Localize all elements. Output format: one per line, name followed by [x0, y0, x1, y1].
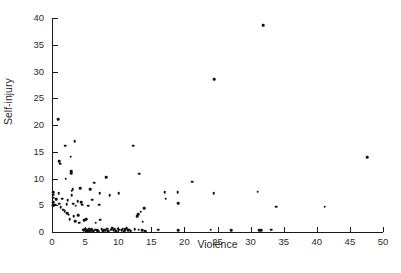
data-point — [97, 230, 100, 233]
data-point — [64, 145, 67, 148]
data-point — [98, 192, 101, 195]
data-point — [260, 229, 263, 232]
data-point — [67, 214, 70, 217]
data-point — [94, 222, 97, 225]
data-point — [57, 118, 60, 121]
data-point — [210, 229, 213, 232]
data-point — [73, 215, 76, 218]
data-point — [85, 218, 88, 221]
data-point — [144, 230, 147, 233]
data-point — [52, 193, 55, 196]
data-point — [133, 228, 136, 231]
data-point — [55, 198, 58, 201]
y-axis-tick — [53, 98, 58, 99]
data-point — [74, 220, 77, 223]
data-point — [132, 145, 135, 148]
y-axis-tick-label: 40 — [33, 13, 44, 23]
data-point — [89, 188, 92, 191]
y-axis-tick-label: 5 — [39, 201, 44, 211]
data-point — [99, 218, 102, 221]
y-axis-tick — [53, 152, 58, 153]
data-point — [71, 188, 74, 191]
data-point — [213, 78, 216, 81]
data-point — [69, 218, 72, 221]
data-point — [71, 194, 74, 197]
data-point — [65, 177, 68, 180]
data-point — [176, 191, 179, 194]
data-point — [270, 229, 273, 232]
data-point — [79, 187, 82, 190]
data-point — [366, 156, 369, 159]
y-axis-tick — [53, 232, 58, 233]
data-point — [105, 176, 108, 179]
y-axis-tick-label: 15 — [33, 147, 44, 157]
data-point — [73, 140, 76, 143]
data-point — [191, 180, 194, 183]
x-axis-tick — [350, 227, 351, 232]
data-point — [93, 181, 96, 184]
data-point — [57, 192, 60, 195]
data-point — [75, 204, 78, 207]
y-axis-tick — [53, 18, 58, 19]
scatter-plot-figure: 05101520253035404550 0510152025303540 Vi… — [0, 0, 401, 273]
x-axis-tick — [218, 227, 219, 232]
data-point — [141, 221, 144, 224]
y-axis-tick — [53, 72, 58, 73]
data-point — [54, 203, 57, 206]
y-axis-tick — [53, 179, 58, 180]
data-point — [81, 203, 84, 206]
y-axis-tick-label: 20 — [33, 120, 44, 130]
data-point — [98, 203, 101, 206]
x-axis-tick — [383, 227, 384, 232]
y-axis-tick — [53, 45, 58, 46]
data-point — [87, 204, 90, 207]
plot-area: 05101520253035404550 0510152025303540 — [52, 18, 383, 232]
data-point — [77, 214, 80, 217]
data-point — [165, 198, 168, 201]
y-axis-tick-label: 30 — [33, 67, 44, 77]
x-axis-tick — [251, 227, 252, 232]
data-point — [69, 155, 72, 158]
data-point — [118, 192, 121, 195]
x-axis-tick — [317, 227, 318, 232]
data-point — [177, 229, 180, 232]
data-point — [91, 199, 94, 202]
y-axis-tick-label: 25 — [33, 94, 44, 104]
data-point — [212, 192, 215, 195]
data-point — [323, 206, 326, 209]
data-point — [78, 222, 81, 225]
x-axis-title: Violence — [52, 238, 383, 250]
data-point — [141, 229, 144, 232]
data-point — [139, 210, 142, 213]
y-axis-tick-label: 35 — [33, 40, 44, 50]
data-point — [137, 229, 140, 232]
y-axis-title: Self-injury — [2, 78, 14, 125]
data-point — [230, 229, 233, 232]
data-point — [65, 203, 68, 206]
data-point — [77, 200, 80, 203]
data-point — [138, 172, 141, 175]
x-axis-tick — [184, 227, 185, 232]
y-axis-tick-label: 10 — [33, 174, 44, 184]
y-axis-tick-label: 0 — [39, 227, 44, 237]
data-point — [67, 199, 70, 202]
data-point — [157, 229, 160, 232]
data-point — [137, 213, 140, 216]
data-point — [275, 206, 278, 209]
data-point — [143, 207, 146, 210]
data-point — [70, 172, 73, 175]
data-point — [58, 202, 61, 205]
data-point — [177, 202, 180, 205]
data-point — [59, 162, 62, 165]
x-axis-tick — [151, 227, 152, 232]
y-axis-tick — [53, 125, 58, 126]
data-point — [129, 230, 132, 233]
data-point — [108, 194, 111, 197]
data-point — [262, 24, 265, 27]
data-point — [61, 198, 64, 201]
data-point — [163, 191, 166, 194]
data-point — [257, 191, 260, 194]
x-axis-tick — [284, 227, 285, 232]
